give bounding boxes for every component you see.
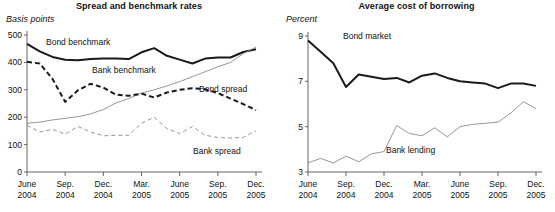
y-tick-label: 200 [8, 112, 22, 122]
y-tick-label: 3 [298, 167, 303, 177]
x-tick-label: Sep. [56, 179, 74, 189]
x-tick-label-year: 2005 [132, 190, 151, 200]
y-tick-label: 7 [298, 76, 303, 86]
x-tick-label-year: 2005 [451, 190, 470, 200]
y-tick-label: 0 [17, 167, 22, 177]
chart-panel-average-cost-of-borrowing: Average cost of borrowing Percent 3579Ju… [278, 0, 555, 212]
x-tick-label: Dec. [527, 179, 544, 189]
y-tick-label: 500 [8, 30, 22, 40]
series-line-bank-spread [27, 117, 256, 138]
y-tick-label: 300 [8, 85, 22, 95]
series-annotation: Bond market [343, 31, 392, 41]
y-tick-label: 5 [298, 122, 303, 132]
x-tick-label: June [451, 179, 470, 189]
series-annotation: Bank spread [193, 146, 241, 156]
x-tick-label: Sep. [489, 179, 507, 189]
series-annotation: Bond spread [199, 84, 247, 94]
y-tick-label: 400 [8, 57, 22, 67]
y-tick-label: 100 [8, 140, 22, 150]
x-tick-label-year: 2004 [56, 190, 75, 200]
x-tick-label-year: 2005 [527, 190, 546, 200]
x-tick-label: June [18, 179, 37, 189]
x-tick-label: Dec. [375, 179, 392, 189]
series-annotation: Bank lending [386, 145, 435, 155]
plot-area-right: 3579June2004Sep.2004Dec.2004Mar.2005June… [278, 0, 555, 212]
series-line-bond-market [308, 41, 536, 89]
x-tick-label-year: 2004 [337, 190, 356, 200]
x-tick-label: Sep. [209, 179, 227, 189]
x-tick-label-year: 2005 [413, 190, 432, 200]
series-annotation: Bank benchmark [92, 65, 157, 75]
x-tick-label: Sep. [337, 179, 355, 189]
x-tick-label-year: 2005 [489, 190, 508, 200]
x-tick-label: Mar. [414, 179, 431, 189]
x-tick-label: Dec. [247, 179, 264, 189]
x-tick-label-year: 2005 [247, 190, 266, 200]
y-tick-label: 9 [298, 31, 303, 41]
x-tick-label: Dec. [95, 179, 112, 189]
plot-area-left: 0100200300400500June2004Sep.2004Dec.2004… [0, 0, 278, 212]
x-tick-label-year: 2004 [299, 190, 318, 200]
x-tick-label-year: 2005 [170, 190, 189, 200]
x-tick-label-year: 2005 [208, 190, 227, 200]
chart-panel-spread-and-benchmark-rates: Spread and benchmark rates Basis points … [0, 0, 278, 212]
dual-chart-figure: Spread and benchmark rates Basis points … [0, 0, 555, 212]
x-tick-label-year: 2004 [18, 190, 37, 200]
x-tick-label-year: 2004 [94, 190, 113, 200]
series-annotation: Bond benchmark [46, 37, 111, 47]
x-tick-label-year: 2004 [375, 190, 394, 200]
x-tick-label: Mar. [133, 179, 150, 189]
x-tick-label: June [170, 179, 189, 189]
x-tick-label: June [299, 179, 318, 189]
